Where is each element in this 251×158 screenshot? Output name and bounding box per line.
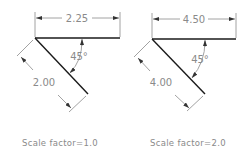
extension-line	[17, 40, 33, 56]
scale-caption: Scale factor=2.0	[150, 138, 226, 148]
extension-line	[69, 96, 86, 112]
horizontal-dimension-text: 4.50	[183, 14, 205, 25]
dimension-scale-diagram: 2.25 45° 2.00 Scale factor=1.0 4.50 45°	[0, 0, 251, 158]
dimension-line	[58, 95, 71, 108]
panel-left: 2.25 45° 2.00 Scale factor=1.0	[17, 12, 120, 148]
extension-line	[187, 96, 203, 111]
angle-arrow	[192, 73, 196, 78]
scale-caption: Scale factor=1.0	[22, 138, 98, 148]
aligned-dimension-text: 4.00	[150, 77, 172, 88]
panel-right: 4.50 45° 4.00 Scale factor=2.0	[134, 13, 236, 148]
extension-line	[134, 41, 150, 57]
dimension-line	[138, 58, 150, 71]
angle-text: 45°	[70, 51, 88, 62]
horizontal-dimension-text: 2.25	[66, 13, 88, 24]
dimension-line	[175, 95, 189, 108]
dimension-line	[21, 57, 33, 70]
angle-text: 45°	[191, 54, 209, 65]
aligned-dimension-text: 2.00	[33, 77, 55, 88]
